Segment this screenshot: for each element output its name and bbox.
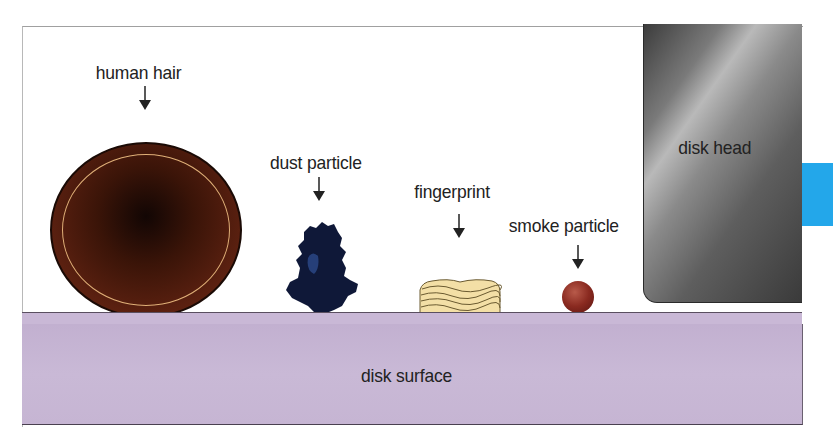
accent-tab — [802, 163, 833, 226]
dust-particle-shape — [284, 220, 364, 316]
label-disk-surface: disk surface — [361, 365, 452, 387]
disk-head — [643, 24, 802, 303]
label-smoke-particle: smoke particle — [509, 215, 619, 237]
smoke-particle-shape — [562, 281, 594, 313]
arrow-down-icon — [313, 177, 325, 201]
label-disk-head: disk head — [678, 137, 751, 159]
arrow-down-icon — [453, 214, 465, 238]
fingerprint-shape — [418, 278, 502, 314]
label-human-hair: human hair — [96, 62, 182, 84]
label-dust-particle: dust particle — [270, 152, 362, 174]
arrow-down-icon — [139, 86, 151, 110]
arrow-down-icon — [572, 245, 584, 269]
label-fingerprint: fingerprint — [414, 181, 490, 203]
human-hair-ring — [62, 154, 230, 306]
